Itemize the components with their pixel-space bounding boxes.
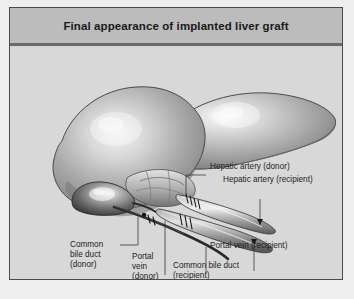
- label-portal-vein-recipient: Portal vein (recipient): [210, 241, 287, 251]
- illustration-panel: Final appearance of implanted liver graf…: [9, 7, 343, 280]
- label-hepatic-artery-donor: Hepatic artery (donor): [210, 162, 290, 172]
- page-title: Final appearance of implanted liver graf…: [63, 20, 288, 32]
- label-hepatic-artery-recipient: Hepatic artery (recipient): [223, 175, 313, 185]
- figure-container: Final appearance of implanted liver graf…: [0, 0, 354, 299]
- illustration-canvas: Hepatic artery (donor) Hepatic artery (r…: [10, 49, 342, 279]
- title-bar: Final appearance of implanted liver graf…: [10, 8, 342, 46]
- liver-graft-illustration: [10, 49, 343, 279]
